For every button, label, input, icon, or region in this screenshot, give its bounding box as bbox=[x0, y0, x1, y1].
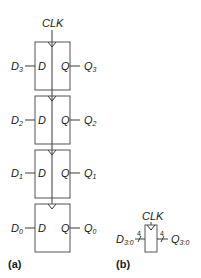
d1-input-label: D1 bbox=[11, 167, 23, 180]
flip-flop-0: D0 D Q Q0 bbox=[11, 204, 97, 252]
caption-b: (b) bbox=[116, 258, 130, 270]
flip-flop-3: D3 D Q Q3 bbox=[11, 42, 97, 90]
d-port-label: D bbox=[38, 167, 46, 179]
clk-label-a: CLK bbox=[42, 17, 64, 29]
caption-a: (a) bbox=[8, 258, 22, 270]
register-diagram: CLK D3 D Q Q3 D2 D Q Q2 bbox=[0, 0, 201, 278]
register-box bbox=[145, 225, 157, 252]
q3-output-label: Q3 bbox=[84, 60, 97, 73]
q-port-label: Q bbox=[61, 60, 70, 72]
d3-input-label: D3 bbox=[11, 60, 23, 73]
q-port-label: Q bbox=[61, 167, 70, 179]
bus-width-in: 4 bbox=[137, 230, 141, 237]
q-port-label: Q bbox=[61, 222, 70, 234]
q-port-label: Q bbox=[61, 114, 70, 126]
q2-output-label: Q2 bbox=[84, 114, 97, 127]
figure-b: CLK 4 D3:0 4 Q3:0 (b) bbox=[116, 210, 189, 270]
flip-flop-1: D1 D Q Q1 bbox=[11, 150, 97, 198]
d-port-label: D bbox=[38, 222, 46, 234]
q-bus-label: Q3:0 bbox=[171, 233, 189, 246]
d-bus-label: D3:0 bbox=[116, 233, 134, 246]
clk-label-b: CLK bbox=[142, 210, 164, 222]
d0-input-label: D0 bbox=[11, 222, 23, 235]
figure-a: CLK D3 D Q Q3 D2 D Q Q2 bbox=[8, 17, 97, 270]
flip-flop-2: D2 D Q Q2 bbox=[11, 96, 97, 144]
d2-input-label: D2 bbox=[11, 114, 23, 127]
q0-output-label: Q0 bbox=[84, 222, 97, 235]
bus-width-out: 4 bbox=[160, 230, 164, 237]
d-port-label: D bbox=[38, 114, 46, 126]
d-port-label: D bbox=[38, 60, 46, 72]
q1-output-label: Q1 bbox=[84, 167, 97, 180]
